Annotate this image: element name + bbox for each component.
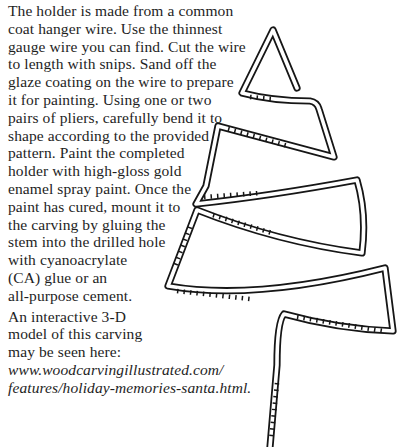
text-line: An interactive 3-D <box>8 308 278 326</box>
text-line: (CA) glue or an <box>8 269 278 287</box>
article-text: The holder is made from a common coat ha… <box>8 2 278 397</box>
text-line: shape according to the provided <box>8 127 278 145</box>
url-text: www.woodcarvingillustrated.com/ <box>8 361 278 379</box>
text-line: model of this carving <box>8 325 278 343</box>
text-line: all-purpose cement. <box>8 287 278 305</box>
text-line: glaze coating on the wire to prepare <box>8 73 278 91</box>
url-text: features/holiday-memories-santa.html. <box>8 379 278 397</box>
text-line: holder with high-gloss gold <box>8 162 278 180</box>
text-line: The holder is made from a common <box>8 2 278 20</box>
text-line: pairs of pliers, carefully bend it to <box>8 109 278 127</box>
text-line: coat hanger wire. Use the thinnest <box>8 20 278 38</box>
text-line: may be seen here: <box>8 343 278 361</box>
text-line: to length with snips. Sand off the <box>8 55 278 73</box>
text-line: stem into the drilled hole <box>8 233 278 251</box>
text-line: pattern. Paint the completed <box>8 144 278 162</box>
text-line: paint has cured, mount it to <box>8 198 278 216</box>
text-line: the carving by gluing the <box>8 216 278 234</box>
second-paragraph: An interactive 3-D model of this carving… <box>8 308 278 397</box>
text-line: enamel spray paint. Once the <box>8 180 278 198</box>
magazine-page: The holder is made from a common coat ha… <box>0 0 399 447</box>
text-line: with cyanoacrylate <box>8 251 278 269</box>
text-line: gauge wire you can find. Cut the wire <box>8 38 278 56</box>
text-line: it for painting. Using one or two <box>8 91 278 109</box>
